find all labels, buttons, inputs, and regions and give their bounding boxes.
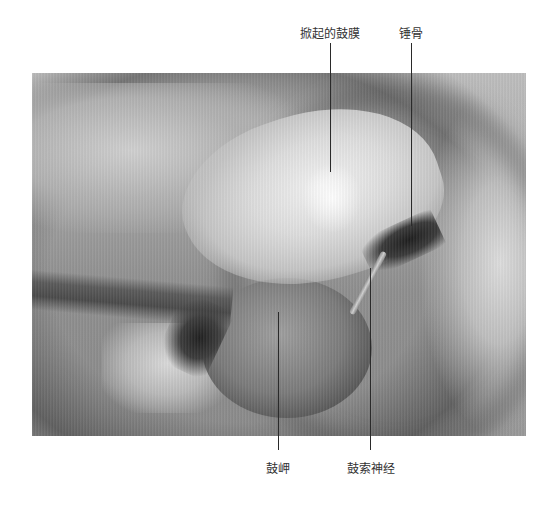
surgical-photo-middle-ear: [32, 73, 526, 436]
label-raised-tympanic-membrane: 掀起的鼓膜: [300, 27, 360, 41]
dark-shadow-ring: [222, 83, 526, 436]
promontory-region: [202, 278, 372, 418]
leader-line-chorda-tympani: [370, 268, 371, 450]
scanline-texture: [32, 73, 526, 436]
chorda-tympani-strand: [349, 251, 387, 316]
label-promontory: 鼓岬: [266, 462, 290, 476]
leader-line-promontory: [278, 312, 279, 450]
surgical-instrument-shaft: [32, 269, 233, 327]
raised-tympanic-membrane-flap: [162, 77, 462, 319]
membrane-highlight: [302, 163, 362, 233]
upper-left-canal-wall: [32, 83, 312, 233]
lower-bone-surface: [102, 323, 232, 413]
leader-line-raised-tympanic-membrane: [330, 43, 331, 172]
right-canal-rim: [356, 73, 526, 436]
label-malleus: 锤骨: [399, 27, 423, 41]
leader-line-malleus: [411, 43, 412, 226]
label-chorda-tympani: 鼓索神经: [347, 462, 395, 476]
surgical-instrument-tip: [154, 290, 236, 381]
canal-wall-background: [32, 73, 526, 436]
